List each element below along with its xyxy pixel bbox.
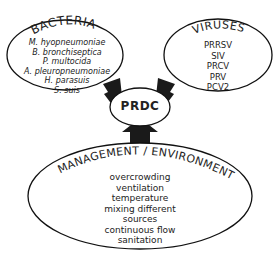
bacteria-item: B. bronchiseptica (12, 48, 122, 58)
viruses-list: PRRSV SIV PRCV PRV PCV2 (183, 40, 253, 93)
virus-item: PRV (183, 72, 253, 83)
prdc-label: PRDC (112, 99, 168, 113)
bacteria-item: A. pleuropneumoniae (12, 67, 122, 77)
virus-item: SIV (183, 51, 253, 62)
management-item: mixing different (60, 204, 220, 215)
management-list: overcrowding ventilation temperature mix… (60, 172, 220, 246)
virus-item: PRRSV (183, 40, 253, 51)
bacteria-list: M. hyopneumoniae B. bronchiseptica P. mu… (12, 38, 122, 95)
bacteria-item: P. multocida (12, 57, 122, 67)
management-item: sanitation (60, 235, 220, 246)
bacteria-item: H. parasuis (12, 76, 122, 86)
bacteria-item: M. hyopneumoniae (12, 38, 122, 48)
management-item: temperature (60, 193, 220, 204)
management-item: overcrowding (60, 172, 220, 183)
bacteria-item: S. suis (12, 86, 122, 96)
management-item: sources (60, 214, 220, 225)
management-item: continuous flow (60, 225, 220, 236)
virus-item: PRCV (183, 61, 253, 72)
management-item: ventilation (60, 183, 220, 194)
virus-item: PCV2 (183, 82, 253, 93)
